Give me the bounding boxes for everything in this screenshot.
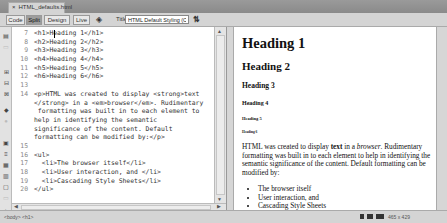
scroll-left-icon[interactable]: ◀ <box>14 203 18 209</box>
code-line: 13 <box>12 81 215 90</box>
preview-heading-5: Heading 5 <box>242 116 436 121</box>
live-view-button[interactable]: Live <box>73 15 90 25</box>
preview-heading-2: Heading 2 <box>242 60 436 72</box>
file-management-icon[interactable]: ⇅ <box>193 15 200 24</box>
balance-braces-icon[interactable]: ● <box>2 118 10 125</box>
scroll-down-icon[interactable]: ▼ <box>217 196 222 202</box>
code-line: 15 <box>12 142 215 151</box>
code-line: 20</ul> <box>12 185 215 194</box>
coding-toolbar: ▤ ▭ ⊞ ⊟ ⊠ ◆ ● ▣ ≡ ▦ ▥ ▢ ▭ ✎ <box>0 27 12 210</box>
scroll-up-icon[interactable]: ▲ <box>217 28 222 34</box>
apply-comment-icon[interactable]: ▢ <box>2 184 10 191</box>
code-line: 9<h3>Heading 3</h3> <box>12 46 215 55</box>
code-line: formatting can be modified by:</p> <box>12 133 215 142</box>
syntax-error-alerts-icon[interactable]: ▦ <box>2 162 10 169</box>
code-line: 12<h6>Heading 6</h6> <box>12 72 215 81</box>
collapse-selection-icon[interactable]: ⊟ <box>2 80 10 87</box>
preview-heading-4: Heading 4 <box>242 100 436 106</box>
close-tab-icon[interactable]: × <box>12 4 16 10</box>
word-wrap-icon[interactable]: ▥ <box>2 173 10 180</box>
dreamweaver-window: ×HTML_defaults.html Code Split Design Li… <box>0 0 447 223</box>
split-view-button[interactable]: Split <box>26 15 42 25</box>
remove-comment-icon[interactable]: ▭ <box>2 195 10 202</box>
select-parent-tag-icon[interactable]: ◆ <box>2 107 10 114</box>
preview-heading-1: Heading 1 <box>242 35 436 52</box>
collapse-tag-icon[interactable]: ⊞ <box>2 69 10 76</box>
code-line: significance of the content. Default <box>12 125 215 134</box>
tablet-size-icon[interactable] <box>367 214 373 219</box>
code-line: 7<h1>Heading 1</h1> <box>12 29 215 38</box>
document-toolbar: Code Split Design Live ◈ Title: ⇅ <box>0 13 447 27</box>
design-view-pane[interactable]: Heading 1 Heading 2 Heading 3 Heading 4 … <box>233 27 437 210</box>
code-line: </strong> in a <em>browser</em>. Rudimen… <box>12 99 215 108</box>
tag-selector[interactable]: <body> <h1> <box>4 214 33 220</box>
code-line: 19 <li>Cascading Style Sheets</li> <box>12 177 215 186</box>
code-editor[interactable]: 7<h1>Heading 1</h1> 8<h2>Heading 2</h2> … <box>12 29 215 194</box>
scroll-right-icon[interactable]: ▶ <box>217 203 221 209</box>
inspect-icon[interactable]: ◈ <box>96 15 102 24</box>
code-pane[interactable]: ▤ ▭ ⊞ ⊟ ⊠ ◆ ● ▣ ≡ ▦ ▥ ▢ ▭ ✎ 7<h1>Heading… <box>0 27 227 210</box>
document-tab[interactable]: ×HTML_defaults.html <box>8 2 65 13</box>
title-input[interactable] <box>125 15 189 24</box>
highlight-invalid-code-icon[interactable]: ≡ <box>2 151 10 158</box>
line-numbers-icon[interactable]: ▣ <box>2 140 10 147</box>
code-line: 11<h5>Heading 5</h5> <box>12 64 215 73</box>
preview-heading-6: Heading 6 <box>242 130 436 134</box>
show-code-navigator-icon[interactable]: ▭ <box>2 44 10 51</box>
code-line: 16<ul> <box>12 151 215 160</box>
preview-paragraph: HTML was created to display text in a br… <box>242 143 432 178</box>
preview-list: The browser itself User interaction, and… <box>258 185 436 211</box>
code-line: formatting was built in to each element … <box>12 107 215 116</box>
expand-all-icon[interactable]: ⊠ <box>2 91 10 98</box>
code-line: help in identifying the semantic <box>12 116 215 125</box>
window-size-display[interactable]: 465 x 429 <box>388 214 410 220</box>
code-line: 18 <li>User interaction, and </li> <box>12 168 215 177</box>
code-view-button[interactable]: Code <box>6 15 25 25</box>
document-tab-label: HTML_defaults.html <box>19 4 73 10</box>
scroll-thumb[interactable] <box>216 35 225 195</box>
code-vertical-scrollbar[interactable]: ▲ ▼ <box>214 27 226 203</box>
desktop-size-icon[interactable] <box>376 214 384 219</box>
code-horizontal-scrollbar[interactable]: ◀ ▶ <box>12 203 226 210</box>
design-view-button[interactable]: Design <box>44 15 70 25</box>
code-line: 14<p>HTML was created to display <strong… <box>12 90 215 99</box>
open-documents-icon[interactable]: ▤ <box>2 33 10 40</box>
status-bar: <body> <h1> 465 x 429 <box>0 210 447 223</box>
code-line: 17 <li>The browser itself</li> <box>12 159 215 168</box>
preview-heading-3: Heading 3 <box>242 81 436 90</box>
code-line: 8<h2>Heading 2</h2> <box>12 38 215 47</box>
document-tab-bar: ×HTML_defaults.html <box>0 0 447 13</box>
code-line: 10<h4>Heading 4</h4> <box>12 55 215 64</box>
mobile-size-icon[interactable] <box>360 214 364 219</box>
